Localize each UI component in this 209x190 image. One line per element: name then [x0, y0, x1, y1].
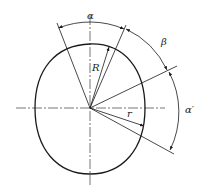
- alpha-label: α: [87, 10, 94, 21]
- alpha-prime-dimension-arc: [169, 72, 179, 150]
- beta-label: β: [160, 36, 167, 47]
- small-radius-arrow: [90, 108, 144, 126]
- alpha-dimension-arc: [59, 22, 125, 29]
- beta-alpha-prime-boundary: [90, 66, 177, 108]
- radial-lines: [57, 23, 177, 154]
- big-radius-label: R: [91, 62, 100, 73]
- big-radius-arrow: [90, 47, 109, 108]
- alpha-left-boundary: [57, 23, 90, 108]
- alpha-prime-label: α′: [185, 104, 195, 115]
- cam-profile-diagram: α β α′ R r: [0, 0, 209, 190]
- centerlines: [16, 15, 165, 185]
- small-radius-label: r: [127, 108, 133, 119]
- alpha-prime-lower-boundary: [90, 108, 174, 154]
